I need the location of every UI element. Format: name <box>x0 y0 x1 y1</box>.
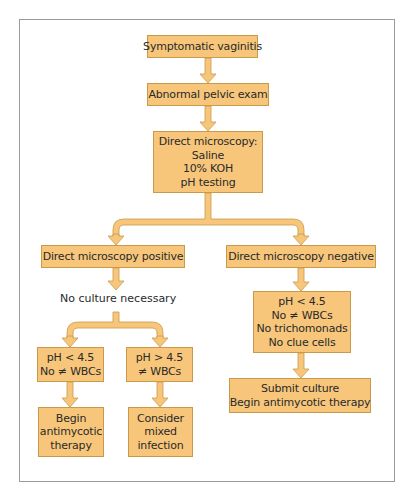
node-text-line: No ≠ WBCs <box>271 309 332 323</box>
arrow-to-ph-low <box>62 336 78 347</box>
arrow-negative-to-criteria <box>293 268 309 291</box>
node-microscopy-positive: Direct microscopy positive <box>41 245 185 268</box>
branch-no-culture <box>67 312 163 338</box>
node-text-line: ≠ WBCs <box>138 365 181 379</box>
node-text-line: Begin antimycotic therapy <box>230 396 371 410</box>
node-direct-microscopy: Direct microscopy:Saline10% KOHpH testin… <box>153 131 263 193</box>
node-ph-high-wbcs: pH > 4.5≠ WBCs <box>126 347 193 382</box>
node-text-line: pH < 4.5 <box>278 295 325 309</box>
node-text-line: No ≠ WBCs <box>40 365 101 379</box>
arrow-ph-high-to-mixed <box>152 382 168 407</box>
node-text-line: mixed <box>144 425 177 439</box>
node-text-line: Submit culture <box>261 382 339 396</box>
arrow-to-ph-high <box>152 336 168 347</box>
node-consider-mixed-infection: Considermixedinfection <box>128 407 193 457</box>
node-begin-antimycotic-therapy: Beginantimycotictherapy <box>38 407 104 457</box>
node-microscopy-negative: Direct microscopy negative <box>226 245 376 268</box>
arrow-symptomatic-to-pelvic <box>200 58 216 83</box>
node-text-line: Direct microscopy positive <box>43 250 184 264</box>
node-text-line: Symptomatic vaginitis <box>143 40 262 54</box>
arrow-pelvic-to-microscopy <box>200 106 216 131</box>
arrow-to-positive <box>108 234 124 245</box>
node-symptomatic-vaginitis: Symptomatic vaginitis <box>147 35 258 58</box>
node-negative-criteria: pH < 4.5No ≠ WBCsNo trichomonadsNo clue … <box>253 291 351 353</box>
arrow-positive-to-no-culture <box>108 268 124 290</box>
node-text-line: pH < 4.5 <box>47 351 94 365</box>
node-abnormal-pelvic-exam: Abnormal pelvic exam <box>147 83 269 106</box>
branch-microscopy <box>113 193 304 236</box>
node-text-line: pH > 4.5 <box>136 351 183 365</box>
node-text-line: infection <box>138 439 184 453</box>
node-text-line: Consider <box>137 412 184 426</box>
node-text-line: therapy <box>50 439 91 453</box>
node-text-line: 10% KOH <box>183 162 233 176</box>
node-text-line: antimycotic <box>40 425 102 439</box>
node-submit-culture: Submit cultureBegin antimycotic therapy <box>229 378 371 413</box>
arrow-to-negative <box>293 234 309 245</box>
node-text-line: Saline <box>192 149 224 163</box>
node-text-line: Abnormal pelvic exam <box>148 88 267 102</box>
node-text-line: Direct microscopy negative <box>228 250 374 264</box>
node-text-line: No trichomonads <box>257 322 348 336</box>
node-text-line: Begin <box>56 412 86 426</box>
node-text-line: Direct microscopy: <box>159 135 258 149</box>
node-no-culture-necessary: No culture necessary <box>60 292 166 305</box>
arrow-ph-low-to-therapy <box>62 382 78 407</box>
arrow-criteria-to-submit <box>293 353 309 378</box>
node-text-line: pH testing <box>181 176 236 190</box>
node-text-line: No clue cells <box>269 336 336 350</box>
node-ph-low-no-wbcs: pH < 4.5No ≠ WBCs <box>37 347 104 382</box>
